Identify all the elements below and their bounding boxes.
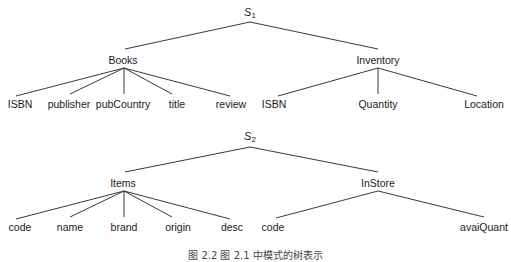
leaf-avaiquant: avaiQuant <box>460 221 508 233</box>
leaf-name: name <box>57 221 83 233</box>
node-items: Items <box>110 177 136 189</box>
leaf-desc: desc <box>221 221 243 233</box>
figure-caption: 图 2.2 图 2.1 中模式的树表示 <box>188 247 323 262</box>
leaf-code: code <box>9 221 32 233</box>
leaf-isbn: ISBN <box>8 98 33 110</box>
tree-s2-root: S2 <box>244 130 256 146</box>
leaf-inventory-isbn: ISBN <box>262 98 287 110</box>
leaf-quantity: Quantity <box>358 98 397 110</box>
node-instore: InStore <box>361 177 395 189</box>
leaf-pubcountry: pubCountry <box>96 98 150 110</box>
leaf-publisher: publisher <box>48 98 91 110</box>
tree-s1-root: S1 <box>244 6 256 22</box>
leaf-origin: origin <box>165 221 191 233</box>
leaf-location: Location <box>464 98 504 110</box>
root-subscript: 1 <box>251 11 255 20</box>
node-inventory: Inventory <box>356 54 399 66</box>
leaf-review: review <box>216 98 246 110</box>
leaf-title: title <box>169 98 185 110</box>
root-subscript: 2 <box>251 135 255 144</box>
leaf-brand: brand <box>111 221 138 233</box>
node-books: Books <box>108 54 137 66</box>
leaf-instore-code: code <box>262 221 285 233</box>
